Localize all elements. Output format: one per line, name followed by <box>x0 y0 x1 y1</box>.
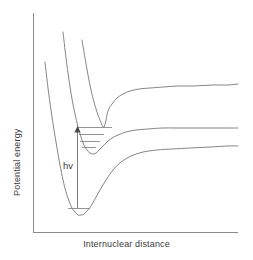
hv-arrow-head <box>74 126 80 133</box>
repulsive-dissociative-curve <box>82 40 238 127</box>
potential-curves-group <box>45 32 238 215</box>
hv-transition-label: hv <box>63 160 73 171</box>
vibrational-levels-group <box>68 128 112 209</box>
y-axis-title: Potential energy <box>12 36 22 196</box>
potential-energy-diagram: hv Potential energy Internuclear distanc… <box>0 0 253 260</box>
plot-canvas <box>0 0 253 260</box>
x-axis-title: Internuclear distance <box>0 239 253 249</box>
transition-arrow-group <box>74 126 80 208</box>
excited-state-morse-curve <box>63 32 238 154</box>
